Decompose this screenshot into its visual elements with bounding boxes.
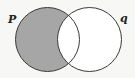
set-q-label: q <box>120 13 128 24</box>
set-p-label: P <box>8 14 16 25</box>
venn-svg <box>0 0 135 78</box>
